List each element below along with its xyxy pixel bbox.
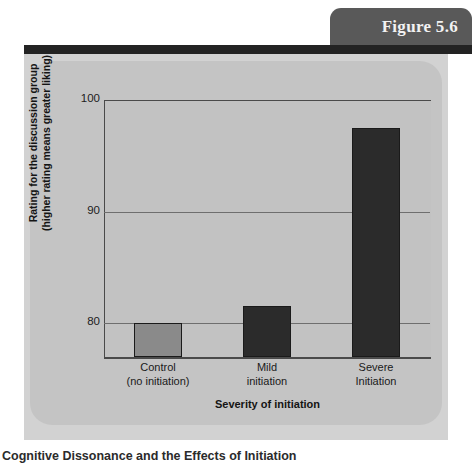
gridline [104,100,430,101]
bar [352,128,400,357]
y-axis-title-line-1: Rating for the discussion group [27,33,40,253]
x-tick-label: Control(no initiation) [98,360,218,388]
y-axis-title-line-2: (higher rating means greater liking) [40,33,53,253]
x-axis-title: Severity of initiation [104,398,431,410]
y-tick-label-group: 1009080 [56,0,100,461]
figure-number-label: Figure 5.6 [330,17,458,37]
x-tick-label-line: Mild [207,360,327,374]
x-tick-label: Mildinitiation [207,360,327,388]
y-axis-title: Rating for the discussion group (higher … [27,33,53,253]
x-axis-line [104,357,431,358]
x-tick-label-line: Severe [316,360,436,374]
y-tick-label: 100 [60,92,100,104]
figure-caption: Cognitive Dissonance and the Effects of … [2,449,470,463]
x-tick-label-line: Control [98,360,218,374]
bar [134,323,182,357]
x-tick-label-line: Initiation [316,374,436,388]
figure-number-tab: Figure 5.6 [330,8,472,48]
x-tick-label-line: (no initiation) [98,374,218,388]
x-tick-label: SevereInitiation [316,360,436,388]
y-tick-label: 80 [60,315,100,327]
bar [243,306,291,357]
y-tick-label: 90 [60,204,100,216]
x-tick-label-line: initiation [207,374,327,388]
